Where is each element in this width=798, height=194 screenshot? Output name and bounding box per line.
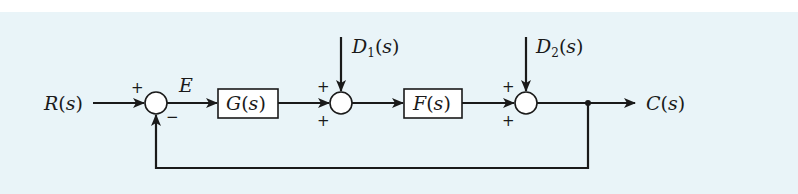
summing-junction-2 [330,92,352,114]
summing-junction-3 [515,92,537,114]
block-g-label: G(s) [226,92,266,114]
sum1-minus-sign: − [166,108,179,126]
input-label: R(s) [43,92,83,114]
diagram-svg: R(s) + − E G(s) + + D1(s) F(s) + + D2(s) [0,0,798,194]
summing-junction-1 [145,92,167,114]
error-label: E [178,74,193,96]
block-f-label: F(s) [412,92,451,114]
sum3-left-plus-sign: + [502,112,515,130]
sum1-plus-sign: + [131,79,144,97]
sum2-left-plus-sign: + [317,112,330,130]
sum2-top-plus-sign: + [317,78,330,96]
d1-label: D1(s) [351,35,399,60]
sum3-top-plus-sign: + [502,78,515,96]
d2-label: D2(s) [535,35,583,60]
block-diagram: R(s) + − E G(s) + + D1(s) F(s) + + D2(s) [0,0,798,194]
output-label: C(s) [646,92,685,114]
